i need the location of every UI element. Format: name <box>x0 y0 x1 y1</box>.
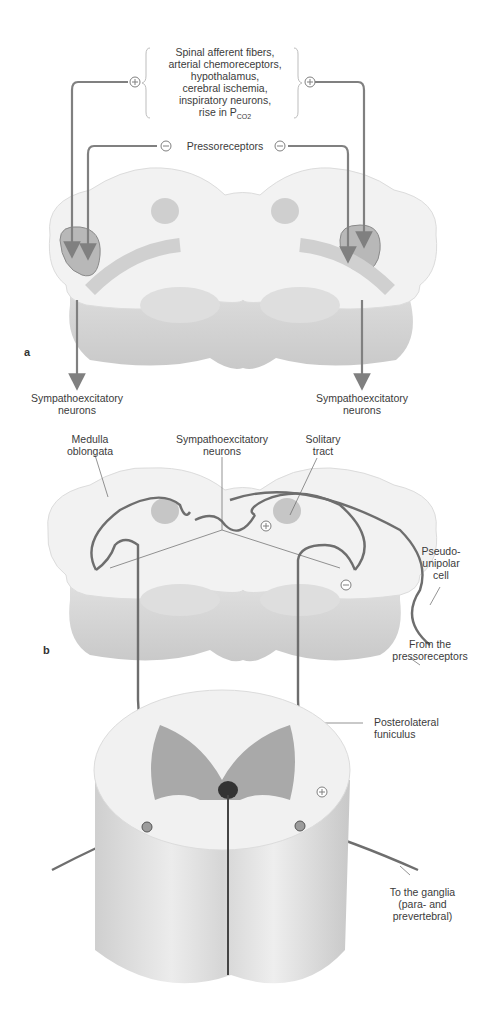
posterolateral-funiculus-label: Posterolateralfuniculus <box>374 716 464 740</box>
diagram-canvas <box>0 0 486 1026</box>
pressoreceptors-label: Pressoreceptors <box>180 140 270 152</box>
medulla-section-a <box>49 168 436 369</box>
from-pressoreceptors-label: From thepressoreceptors <box>390 638 470 662</box>
medulla-label: Medullaoblongata <box>60 433 120 457</box>
solitary-tract-label: Solitarytract <box>298 433 348 457</box>
to-ganglia-label: To the ganglia(para- andprevertebral) <box>385 886 460 922</box>
sympathoexcitatory-right-label: Sympathoexcitatoryneurons <box>315 392 409 416</box>
sympathoexcitatory-left-label: Sympathoexcitatoryneurons <box>30 392 124 416</box>
sympathoexcitatory-neurons-label: Sympathoexcitatoryneurons <box>175 433 269 457</box>
panel-a-letter: a <box>24 346 30 358</box>
excitatory-inputs-label: Spinal afferent fibers, arterial chemore… <box>160 46 290 123</box>
panel-b-letter: b <box>43 644 50 656</box>
pseudounipolar-label: Pseudo-unipolarcell <box>416 545 466 581</box>
spinal-cord <box>94 690 350 983</box>
